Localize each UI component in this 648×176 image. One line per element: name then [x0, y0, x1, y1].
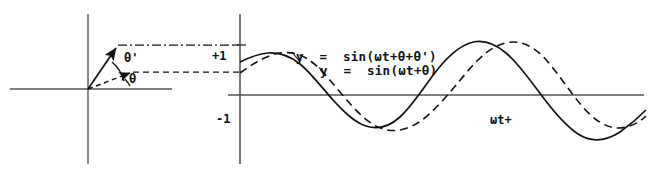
leading-phasor-arrow: [88, 48, 116, 89]
theta-prime-arc: [112, 62, 124, 81]
waveform-axes: [228, 14, 644, 164]
phasor-waveform-figure: θ' θ +1 -1 y = sin(ωt+θ+θ') y = sin(ωt+θ…: [0, 0, 648, 176]
equation-reference-label: y = sin(ωt+θ): [320, 63, 437, 78]
theta-label: θ: [129, 72, 136, 86]
omega-t-axis-label: ωt+: [490, 113, 512, 127]
theta-prime-label: θ': [124, 51, 138, 65]
phasor-axes: [10, 14, 172, 164]
equation-leading-label: y = sin(ωt+θ+θ'): [296, 49, 437, 64]
minus-one-label: -1: [216, 112, 230, 126]
leading-phasor: [88, 48, 116, 89]
plus-one-label: +1: [212, 49, 226, 63]
figure-canvas: [0, 0, 648, 176]
